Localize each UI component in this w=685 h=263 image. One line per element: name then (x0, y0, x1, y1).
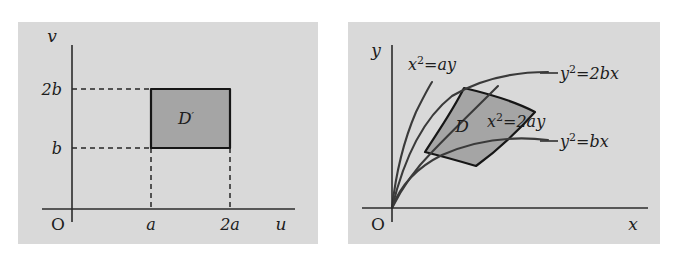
figure-root: v u O 2b b a 2a D′ (0, 0, 685, 263)
uv-plane-panel (18, 22, 318, 244)
xy-plane-panel (348, 22, 660, 244)
